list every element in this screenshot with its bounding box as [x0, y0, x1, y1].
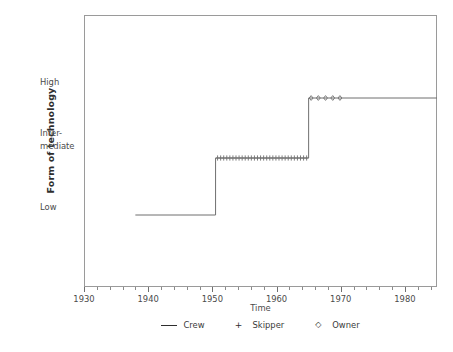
- x-minor-tick: [431, 287, 432, 290]
- x-minor-tick: [315, 287, 316, 290]
- x-minor-tick: [354, 287, 355, 290]
- x-minor-tick: [174, 287, 175, 290]
- x-major-tick: [148, 287, 149, 292]
- y-tick-label-low: Low: [40, 202, 100, 212]
- y-tick-label-intermediate-line1: Inter-: [40, 128, 100, 138]
- x-major-tick: [341, 287, 342, 292]
- x-minor-tick: [225, 287, 226, 290]
- x-minor-tick: [289, 287, 290, 290]
- legend-diamond-icon: ◇: [310, 321, 326, 329]
- chart-figure: Form of technology High Inter- mediate L…: [0, 0, 453, 352]
- x-minor-tick: [251, 287, 252, 290]
- legend-plus-icon: +: [231, 321, 247, 329]
- x-minor-tick: [200, 287, 201, 290]
- x-minor-tick: [238, 287, 239, 290]
- x-axis-title: Time: [84, 303, 437, 313]
- x-minor-tick: [123, 287, 124, 290]
- legend-entry-skipper: + Skipper: [231, 320, 285, 330]
- legend-label-owner: Owner: [332, 320, 359, 330]
- legend-entry-crew: Crew: [161, 320, 204, 330]
- x-minor-tick: [97, 287, 98, 290]
- legend-line-icon: [161, 321, 177, 329]
- chart-legend: Crew + Skipper ◇ Owner: [84, 320, 437, 330]
- y-tick-label-intermediate-line2: mediate: [40, 141, 100, 151]
- y-tick-label-high: High: [40, 77, 100, 87]
- legend-label-crew: Crew: [183, 320, 204, 330]
- legend-entry-owner: ◇ Owner: [310, 320, 359, 330]
- x-major-tick: [84, 287, 85, 292]
- x-major-tick: [405, 287, 406, 292]
- x-major-tick: [277, 287, 278, 292]
- x-minor-tick: [110, 287, 111, 290]
- x-minor-tick: [366, 287, 367, 290]
- plot-area: [84, 15, 437, 287]
- x-major-tick: [212, 287, 213, 292]
- x-minor-tick: [392, 287, 393, 290]
- legend-label-skipper: Skipper: [253, 320, 285, 330]
- x-minor-tick: [187, 287, 188, 290]
- x-minor-tick: [302, 287, 303, 290]
- x-minor-tick: [379, 287, 380, 290]
- x-minor-tick: [161, 287, 162, 290]
- x-minor-tick: [418, 287, 419, 290]
- x-minor-tick: [328, 287, 329, 290]
- x-minor-tick: [264, 287, 265, 290]
- x-minor-tick: [135, 287, 136, 290]
